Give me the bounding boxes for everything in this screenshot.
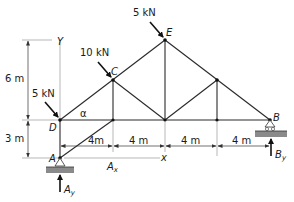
node-D <box>58 118 62 122</box>
member-CH <box>113 80 165 120</box>
node-E <box>163 38 167 42</box>
node-label-D: D <box>49 122 57 133</box>
node-G <box>111 118 114 121</box>
reaction-label-Ax: Ax <box>106 161 119 174</box>
node-C <box>111 78 115 82</box>
reaction-Ay: Ay <box>60 175 76 197</box>
dimension-label-6m: 6 m <box>5 73 24 84</box>
dimension-label-3m: 3 m <box>5 133 24 144</box>
x-axis: x Ax <box>64 152 167 174</box>
support-B <box>255 120 287 137</box>
horizontal-dimensions: 4m 4 m 4 m 4 m <box>61 122 269 156</box>
dimension-3m: 3 m <box>4 121 28 157</box>
node-label-B: B <box>273 112 280 123</box>
load-label-E: 5 kN <box>133 7 156 18</box>
dimension-label-4m-1: 4m <box>88 135 104 146</box>
ground-hatch-icon <box>46 167 74 173</box>
arrow-icon <box>98 62 111 77</box>
dimension-label-4m-4: 4 m <box>232 135 251 146</box>
arrow-icon <box>45 102 58 117</box>
load-label-C: 10 kN <box>80 47 109 58</box>
node-label-E: E <box>166 27 173 38</box>
dimension-label-4m-2: 4 m <box>129 135 148 146</box>
node-label-A: A <box>48 153 56 164</box>
node-H <box>163 118 166 121</box>
angle-alpha-label: α <box>80 108 87 119</box>
reaction-label-By: By <box>275 149 287 162</box>
load-D: 5 kN <box>32 88 58 117</box>
truss-diagram: Y 6 m 3 m α <box>0 0 294 202</box>
node-I <box>215 118 218 121</box>
node-F <box>215 78 219 82</box>
pin-support-icon <box>55 158 65 166</box>
ground-hatch-icon <box>255 131 287 137</box>
member-AG <box>60 120 113 158</box>
y-axis: Y <box>57 36 64 120</box>
reaction-label-Ay: Ay <box>63 184 76 197</box>
node-label-C: C <box>111 66 118 77</box>
dimension-label-4m-3: 4 m <box>181 135 200 146</box>
dimension-6m: 6 m <box>4 41 28 119</box>
load-E: 5 kN <box>133 7 163 37</box>
arrow-icon <box>150 22 163 37</box>
reaction-By: By <box>271 139 287 162</box>
member-FH <box>165 80 217 120</box>
angle-alpha: α <box>80 108 87 119</box>
x-axis-label: x <box>160 152 167 163</box>
y-axis-label: Y <box>57 36 64 47</box>
load-C: 10 kN <box>80 47 111 77</box>
load-label-D: 5 kN <box>32 88 55 99</box>
